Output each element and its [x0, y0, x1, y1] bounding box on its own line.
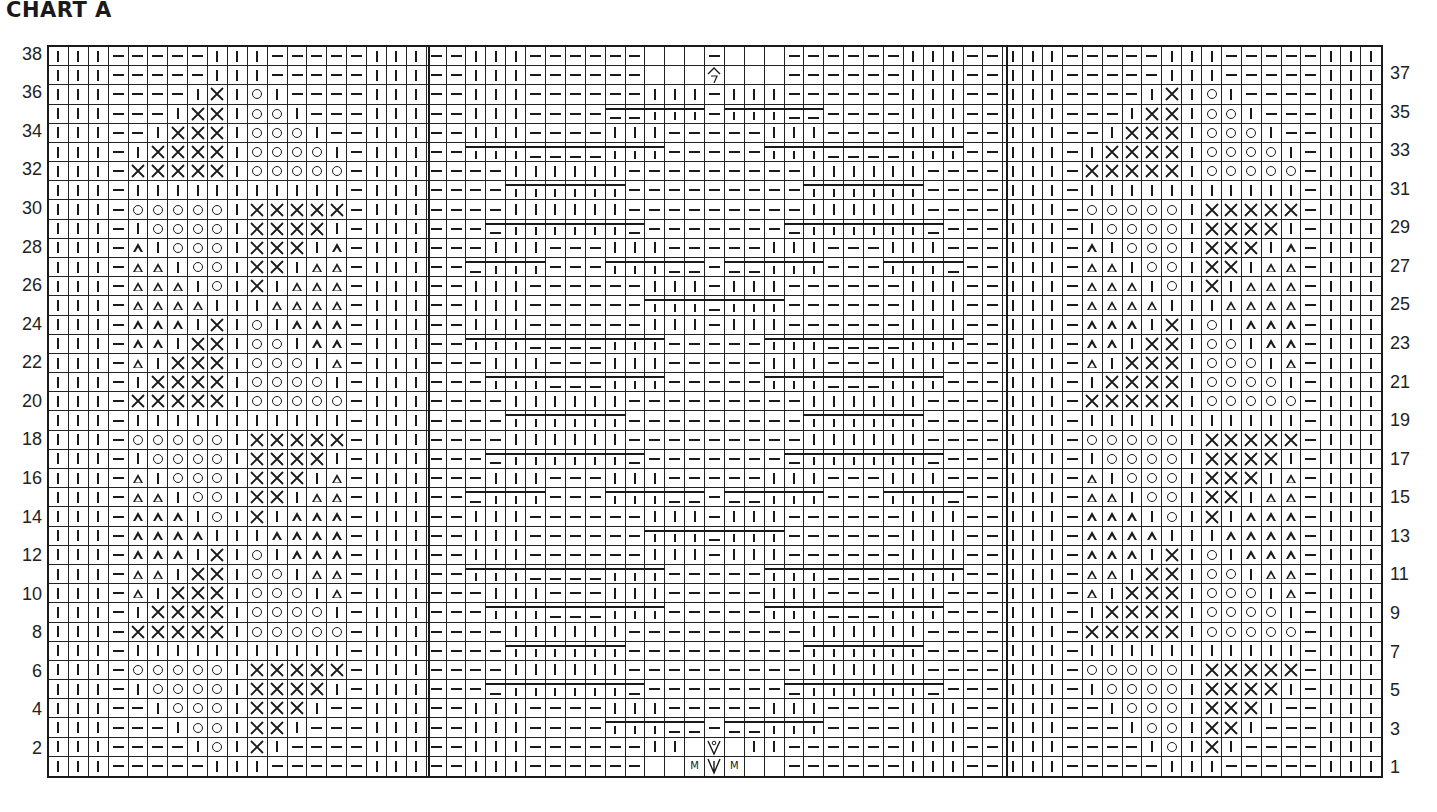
cell-knit — [1222, 642, 1242, 661]
cell-purl — [864, 757, 884, 776]
cell-knit — [188, 181, 208, 200]
cell-purl — [347, 296, 367, 315]
cell-knit — [148, 239, 168, 258]
cell-triangle — [1242, 296, 1262, 315]
cell-knit — [1043, 335, 1063, 354]
cell-purl-under-cable — [824, 373, 844, 392]
cell-knit-under-cable — [466, 565, 486, 584]
cell-cross — [168, 584, 188, 603]
cell-purl — [964, 66, 984, 85]
cell-knit — [407, 354, 427, 373]
cell-knit-under-cable — [944, 335, 964, 354]
cell-circle — [1083, 431, 1103, 450]
cell-triangle — [268, 296, 288, 315]
cell-purl — [526, 507, 546, 526]
cell-purl — [844, 488, 864, 507]
cell-knit — [685, 507, 705, 526]
cell-knit — [367, 354, 387, 373]
cell-purl — [745, 680, 765, 699]
cell-purl — [765, 642, 785, 661]
cell-knit — [924, 718, 944, 737]
cell-purl — [626, 738, 646, 757]
cell-purl — [685, 143, 705, 162]
cell-purl — [1301, 738, 1321, 757]
cell-knit — [1182, 411, 1202, 430]
cell-knit — [1222, 316, 1242, 335]
cell-central-decrease — [705, 757, 725, 776]
cell-knit — [387, 469, 407, 488]
cell-purl — [705, 718, 725, 737]
cell-knit — [924, 507, 944, 526]
cell-purl — [626, 411, 646, 430]
cell-knit-under-cable — [884, 258, 904, 277]
cell-cross — [208, 623, 228, 642]
cell-purl — [884, 527, 904, 546]
cell-no-stitch — [725, 738, 745, 757]
cell-knit — [1361, 757, 1381, 776]
cell-purl — [466, 239, 486, 258]
cell-purl — [785, 296, 805, 315]
cell-knit — [1361, 316, 1381, 335]
cell-knit-under-cable — [606, 565, 626, 584]
cell-purl — [347, 488, 367, 507]
cell-circle — [1202, 623, 1222, 642]
cell-purl — [1301, 718, 1321, 737]
cell-knit — [288, 565, 308, 584]
cell-knit — [1023, 392, 1043, 411]
cell-cross — [1242, 699, 1262, 718]
cell-purl — [983, 181, 1003, 200]
cell-purl — [964, 757, 984, 776]
cell-cross — [148, 603, 168, 622]
cell-circle — [1162, 661, 1182, 680]
cell-knit — [1321, 85, 1341, 104]
cell-purl — [864, 699, 884, 718]
cell-knit-under-cable — [904, 603, 924, 622]
cell-circle — [1222, 335, 1242, 354]
cell-purl — [844, 354, 864, 373]
cell-purl-under-cable — [566, 565, 586, 584]
cell-purl — [765, 181, 785, 200]
cell-knit — [49, 277, 69, 296]
cell-knit — [387, 239, 407, 258]
cell-circle — [1242, 603, 1262, 622]
cell-purl — [347, 200, 367, 219]
cell-cross — [208, 124, 228, 143]
cell-knit-under-cable — [566, 411, 586, 430]
cell-cross — [1103, 373, 1123, 392]
cell-purl — [466, 162, 486, 181]
cell-knit — [466, 718, 486, 737]
cell-knit-under-cable — [685, 105, 705, 124]
cell-purl — [1063, 66, 1083, 85]
cell-circle — [268, 565, 288, 584]
cell-knit — [904, 527, 924, 546]
cell-purl — [109, 546, 129, 565]
cell-purl — [566, 354, 586, 373]
cell-knit — [268, 316, 288, 335]
cell-knit — [1182, 488, 1202, 507]
cell-cross — [1202, 661, 1222, 680]
cell-knit-under-cable — [745, 527, 765, 546]
cell-circle — [1123, 699, 1143, 718]
cell-knit — [884, 392, 904, 411]
cell-knit — [1023, 47, 1043, 66]
cell-knit — [69, 584, 89, 603]
cell-purl — [645, 392, 665, 411]
cell-triangle — [1222, 527, 1242, 546]
cell-cross — [307, 431, 327, 450]
cell-cross — [288, 680, 308, 699]
cell-purl — [785, 47, 805, 66]
cell-purl — [785, 200, 805, 219]
cell-circle — [208, 661, 228, 680]
cell-knit — [387, 354, 407, 373]
cell-purl — [1262, 47, 1282, 66]
cell-knit-under-cable — [924, 335, 944, 354]
cell-knit — [268, 642, 288, 661]
cell-purl — [844, 66, 864, 85]
cell-triangle — [168, 546, 188, 565]
cell-knit — [407, 680, 427, 699]
cell-purl — [606, 47, 626, 66]
cell-knit — [228, 335, 248, 354]
cell-knit — [665, 507, 685, 526]
cell-knit — [1222, 277, 1242, 296]
cell-triangle — [188, 296, 208, 315]
